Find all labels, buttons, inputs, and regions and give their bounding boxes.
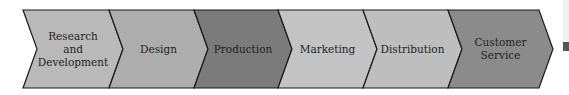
stage-label-line: Development (38, 56, 109, 68)
edge-bar-bottom (563, 42, 569, 51)
stage-label-6: CustomerService (475, 36, 528, 61)
stage-label-line: Production (214, 43, 273, 55)
value-chain-diagram: ResearchandDevelopmentDesignProductionMa… (0, 0, 569, 95)
stage-label-3: Production (214, 43, 273, 55)
stage-label-2: Design (140, 43, 177, 55)
stage-label-line: and (63, 43, 83, 55)
edge-bar-top (563, 0, 569, 42)
stage-label-line: Design (140, 43, 177, 55)
stage-label-line: Service (481, 49, 521, 61)
stage-label-line: Customer (475, 36, 528, 48)
stage-label-5: Distribution (381, 43, 445, 55)
stage-label-4: Marketing (300, 43, 356, 55)
stage-label-line: Marketing (300, 43, 356, 55)
stage-label-line: Distribution (381, 43, 445, 55)
stage-label-line: Research (48, 30, 98, 42)
